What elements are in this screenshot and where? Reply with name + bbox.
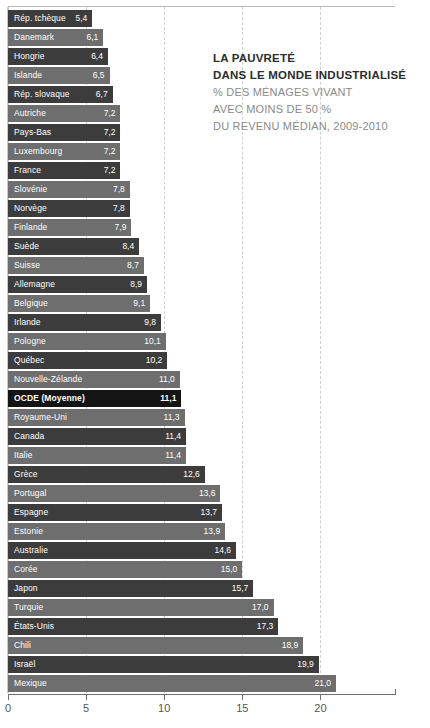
- bar[interactable]: Autriche7,2: [8, 105, 120, 122]
- bar-category-label: Allemagne: [14, 280, 55, 289]
- top-rule: [8, 6, 395, 7]
- bar-row[interactable]: Finlande7,9: [0, 218, 430, 237]
- bar-value-label: 7,2: [104, 109, 116, 118]
- bar[interactable]: Estonie13,9: [8, 523, 225, 540]
- bar[interactable]: Danemark6,1: [8, 29, 103, 46]
- x-tick-label-20: 20: [314, 702, 326, 714]
- bar-row[interactable]: Australie14,6: [0, 541, 430, 560]
- bar[interactable]: OCDE (Moyenne)11,1: [8, 390, 181, 407]
- bar[interactable]: Corée15,0: [8, 561, 242, 578]
- bar-category-label: Suisse: [14, 261, 40, 270]
- bar-value-label: 12,6: [183, 470, 200, 479]
- bar-row[interactable]: Allemagne8,9: [0, 275, 430, 294]
- bar[interactable]: Luxembourg7,2: [8, 143, 120, 160]
- bar-value-label: 13,6: [199, 489, 216, 498]
- bar[interactable]: Turquie17,0: [8, 599, 274, 616]
- bar[interactable]: Portugal13,6: [8, 485, 220, 502]
- bar[interactable]: Chili18,9: [8, 637, 303, 654]
- bar[interactable]: Islande6,5: [8, 67, 110, 84]
- bar[interactable]: Suède8,4: [8, 238, 139, 255]
- bar-category-label: Pologne: [14, 337, 46, 346]
- bar[interactable]: Québec10,2: [8, 352, 167, 369]
- title-block: LA PAUVRETÉ DANS LE MONDE INDUSTRIALISÉ …: [213, 50, 428, 135]
- bar-value-label: 11,0: [159, 375, 175, 384]
- bar-row[interactable]: Pologne10,1: [0, 332, 430, 351]
- bar-row[interactable]: Grèce12,6: [0, 465, 430, 484]
- bar[interactable]: Hongrie6,4: [8, 48, 108, 65]
- bar-row[interactable]: Royaume-Uni11,3: [0, 408, 430, 427]
- bar[interactable]: Pologne10,1: [8, 333, 166, 350]
- chart-title-line-2: DANS LE MONDE INDUSTRIALISÉ: [213, 67, 428, 84]
- poverty-bar-chart: Rép. tchèque5,4Danemark6,1Hongrie6,4Isla…: [0, 0, 430, 728]
- bar-row[interactable]: Slovénie7,8: [0, 180, 430, 199]
- bar-row[interactable]: Italie11,4: [0, 446, 430, 465]
- bar-row[interactable]: Suède8,4: [0, 237, 430, 256]
- bar-row[interactable]: Mexique21,0: [0, 674, 430, 693]
- bar[interactable]: Canada11,4: [8, 428, 186, 445]
- bar-value-label: 19,9: [297, 660, 314, 669]
- bar[interactable]: États-Unis17,3: [8, 618, 278, 635]
- bar-row[interactable]: Estonie13,9: [0, 522, 430, 541]
- x-tick-label-5: 5: [83, 702, 89, 714]
- bar-row[interactable]: Luxembourg7,2: [0, 142, 430, 161]
- bar[interactable]: Irlande9,8: [8, 314, 161, 331]
- bar[interactable]: Israël19,9: [8, 656, 319, 673]
- bar-row[interactable]: Norvège7,8: [0, 199, 430, 218]
- bar-value-label: 9,1: [133, 299, 145, 308]
- bar-row[interactable]: Espagne13,7: [0, 503, 430, 522]
- bar[interactable]: Rép. slovaque6,7: [8, 86, 113, 103]
- bar[interactable]: Nouvelle-Zélande11,0: [8, 371, 180, 388]
- bar[interactable]: Grèce12,6: [8, 466, 205, 483]
- bar[interactable]: France7,2: [8, 162, 120, 179]
- bar-value-label: 15,0: [221, 565, 238, 574]
- bar-category-label: Québec: [14, 356, 44, 365]
- bar-row[interactable]: Belgique9,1: [0, 294, 430, 313]
- bar-value-label: 17,0: [252, 603, 269, 612]
- bar[interactable]: Suisse8,7: [8, 257, 144, 274]
- bar-value-label: 17,3: [257, 622, 274, 631]
- bar-row[interactable]: Turquie17,0: [0, 598, 430, 617]
- bar[interactable]: Espagne13,7: [8, 504, 222, 521]
- bar-row[interactable]: Rép. tchèque5,4: [0, 9, 430, 28]
- x-tick-15: [242, 694, 243, 700]
- x-tick-0: [8, 694, 9, 700]
- bar-row[interactable]: Suisse8,7: [0, 256, 430, 275]
- bar[interactable]: Norvège7,8: [8, 200, 130, 217]
- bar-value-label: 6,4: [91, 52, 103, 61]
- bar[interactable]: Slovénie7,8: [8, 181, 130, 198]
- bar-row[interactable]: Canada11,4: [0, 427, 430, 446]
- bar[interactable]: Australie14,6: [8, 542, 236, 559]
- x-tick-label-0: 0: [5, 702, 11, 714]
- bar[interactable]: Royaume-Uni11,3: [8, 409, 185, 426]
- bar-row[interactable]: Nouvelle-Zélande11,0: [0, 370, 430, 389]
- chart-title-line-1: LA PAUVRETÉ: [213, 50, 428, 67]
- bar-category-label: Hongrie: [14, 52, 44, 61]
- bar[interactable]: Finlande7,9: [8, 219, 131, 236]
- bar[interactable]: Pays-Bas7,2: [8, 124, 120, 141]
- bar[interactable]: Japon15,7: [8, 580, 253, 597]
- bar-category-label: Turquie: [14, 603, 43, 612]
- bar-value-label: 11,4: [165, 451, 181, 460]
- bar[interactable]: Mexique21,0: [8, 675, 336, 692]
- bar[interactable]: Rép. tchèque5,4: [8, 10, 92, 27]
- bar[interactable]: Belgique9,1: [8, 295, 150, 312]
- bar-row[interactable]: France7,2: [0, 161, 430, 180]
- bar-row[interactable]: Québec10,2: [0, 351, 430, 370]
- bar-row[interactable]: Japon15,7: [0, 579, 430, 598]
- bar-row[interactable]: Danemark6,1: [0, 28, 430, 47]
- bar-row[interactable]: Chili18,9: [0, 636, 430, 655]
- bar-row[interactable]: États-Unis17,3: [0, 617, 430, 636]
- bar-value-label: 7,2: [104, 147, 116, 156]
- x-tick-label-10: 10: [158, 702, 170, 714]
- bar-value-label: 14,6: [215, 546, 232, 555]
- bar[interactable]: Italie11,4: [8, 447, 186, 464]
- bar-category-label: Islande: [14, 71, 42, 80]
- bar[interactable]: Allemagne8,9: [8, 276, 147, 293]
- bar-row[interactable]: Irlande9,8: [0, 313, 430, 332]
- bar-row[interactable]: Corée15,0: [0, 560, 430, 579]
- bar-row[interactable]: OCDE (Moyenne)11,1: [0, 389, 430, 408]
- bar-category-label: Italie: [14, 451, 33, 460]
- bar-row[interactable]: Israël19,9: [0, 655, 430, 674]
- bar-value-label: 13,9: [204, 527, 221, 536]
- bar-row[interactable]: Portugal13,6: [0, 484, 430, 503]
